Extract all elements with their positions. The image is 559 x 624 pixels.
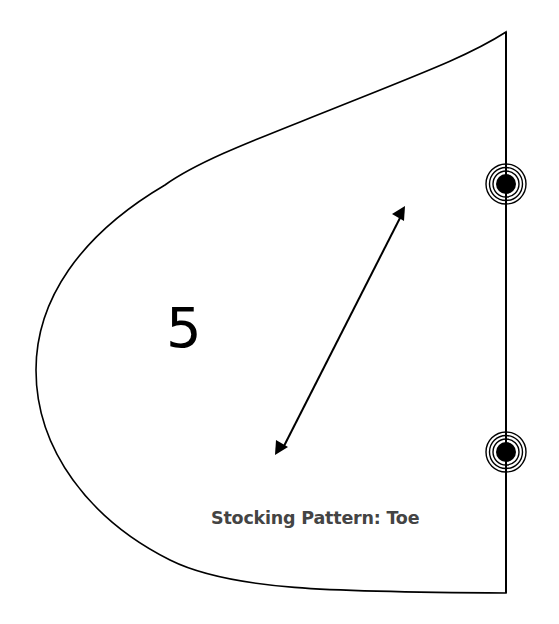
grainline-arrow-icon [275, 206, 405, 455]
pattern-canvas [0, 0, 559, 624]
piece-number: 5 [166, 300, 202, 356]
piece-label: Stocking Pattern: Toe [211, 510, 419, 528]
